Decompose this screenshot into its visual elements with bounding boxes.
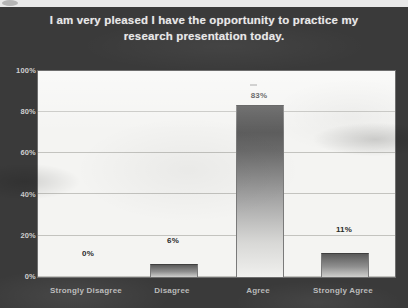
- bar-value-label: 11%: [321, 225, 367, 234]
- y-axis-tick-label: 80%: [2, 107, 36, 116]
- y-axis-tick-label: 0%: [2, 272, 36, 281]
- plot-sheen: [38, 71, 395, 277]
- gridline: [38, 235, 395, 236]
- bar-value-label: 83%: [236, 91, 282, 100]
- plot-area: 0% 6% 83% 11%: [38, 71, 395, 277]
- presentation-slide: I am very pleased I have the opportunity…: [0, 7, 408, 308]
- gridline: [38, 152, 395, 153]
- scan-smudge: [2, 0, 18, 6]
- scan-speck: [250, 84, 257, 86]
- x-axis-tick-label-strongly-disagree: Strongly Disagree: [42, 286, 130, 295]
- bar-value-label: 6%: [150, 236, 196, 245]
- bar-agree: [236, 105, 284, 277]
- x-axis-tick-label-disagree: Disagree: [128, 286, 216, 295]
- x-axis-tick-label-agree: Agree: [214, 286, 302, 295]
- gridline: [38, 193, 395, 194]
- y-axis-tick-label: 60%: [2, 148, 36, 157]
- paper-edge: [0, 0, 408, 7]
- bar-chart: 100% 80% 60% 40% 20% 0% 0% 6: [0, 7, 408, 308]
- slide-screenshot: I am very pleased I have the opportunity…: [0, 0, 408, 308]
- y-axis-tick-label: 100%: [2, 66, 36, 75]
- bar-strongly-agree: [321, 253, 369, 277]
- bar-value-label: 0%: [65, 249, 111, 258]
- y-axis-tick-label: 20%: [2, 231, 36, 240]
- bar-disagree: [150, 264, 198, 277]
- y-axis-tick-label: 40%: [2, 190, 36, 199]
- x-axis-tick-label-strongly-agree: Strongly Agree: [299, 286, 387, 295]
- gridline: [38, 111, 395, 112]
